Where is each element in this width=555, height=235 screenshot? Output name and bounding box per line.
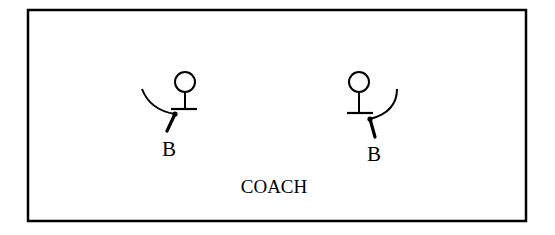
player-head-icon (349, 72, 369, 92)
movement-arc (142, 89, 175, 114)
movement-arc (370, 89, 397, 119)
player-label-left: B (162, 137, 176, 161)
stick-line (370, 119, 375, 137)
coach-caption: COACH (241, 176, 308, 197)
player-figure-left: B (142, 72, 197, 161)
diagram-canvas: B B COACH (0, 0, 555, 235)
player-head-icon (175, 72, 195, 92)
player-figure-right: B (347, 72, 397, 166)
stick-line (167, 114, 175, 131)
player-label-right: B (367, 142, 381, 166)
